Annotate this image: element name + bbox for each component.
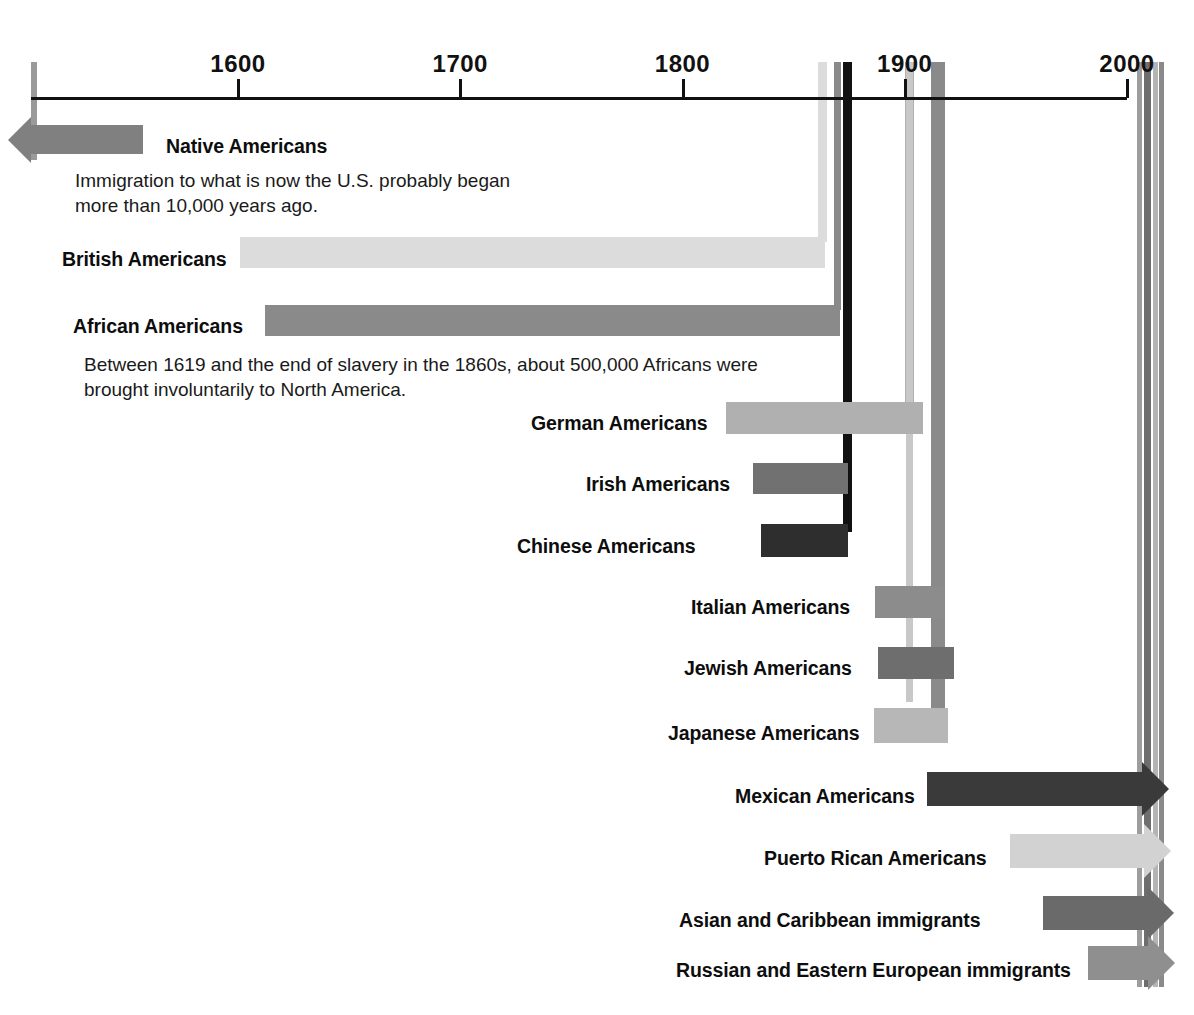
timeline-bar-native-americans[interactable]: [31, 125, 143, 154]
timeline-bar-italian-americans[interactable]: [875, 586, 944, 618]
timeline-label-british-americans: British Americans: [62, 250, 226, 270]
era-guide-italian-americans: [931, 62, 945, 722]
timeline-bar-mexican-americans[interactable]: [927, 772, 1142, 806]
caption-0: Immigration to what is now the U.S. prob…: [75, 168, 510, 218]
caption-1: Between 1619 and the end of slavery in t…: [84, 352, 758, 402]
timeline-label-mexican-americans: Mexican Americans: [735, 787, 915, 807]
timeline-arrow-right-mexican-americans: [1142, 762, 1169, 816]
timeline-bar-irish-americans[interactable]: [753, 463, 848, 494]
axis-tick-1800: [682, 79, 685, 98]
timeline-bar-german-americans[interactable]: [726, 402, 923, 434]
axis-tick-1900: [904, 79, 907, 98]
axis-tick-1700: [459, 79, 462, 98]
timeline-bar-jewish-americans[interactable]: [878, 647, 954, 679]
era-guide-chinese-americans: [843, 62, 852, 532]
timeline-arrow-right-puerto-rican-americans: [1144, 824, 1171, 878]
timeline-label-puerto-rican-americans: Puerto Rican Americans: [764, 849, 987, 869]
timeline-label-german-americans: German Americans: [531, 414, 708, 434]
timeline-label-italian-americans: Italian Americans: [691, 598, 850, 618]
timeline-bar-british-americans[interactable]: [240, 237, 825, 268]
timeline-label-jewish-americans: Jewish Americans: [684, 659, 852, 679]
axis-tick-1600: [237, 79, 240, 98]
timeline-label-asian-and-caribbean-immigrants: Asian and Caribbean immigrants: [679, 911, 981, 931]
timeline-label-irish-americans: Irish Americans: [586, 475, 730, 495]
axis-tick-label-1700: 1700: [433, 50, 488, 78]
timeline-arrow-left-native-americans: [8, 117, 31, 163]
timeline-label-african-americans: African Americans: [73, 317, 243, 337]
timeline-axis: [31, 97, 1127, 100]
timeline-label-japanese-americans: Japanese Americans: [668, 724, 860, 744]
timeline-bar-puerto-rican-americans[interactable]: [1010, 834, 1144, 868]
axis-tick-label-2000: 2000: [1099, 50, 1154, 78]
axis-tick-label-1900: 1900: [877, 50, 932, 78]
timeline-label-native-americans: Native Americans: [166, 137, 327, 157]
era-guide-british-americans: [818, 62, 827, 242]
axis-tick-label-1600: 1600: [210, 50, 265, 78]
axis-tick-label-1800: 1800: [655, 50, 710, 78]
axis-tick-2000: [1126, 79, 1129, 98]
timeline-bar-russian-and-eastern-european-immigrants[interactable]: [1088, 946, 1148, 980]
timeline-arrow-right-asian-and-caribbean-immigrants: [1147, 886, 1174, 940]
timeline-bar-chinese-americans[interactable]: [761, 524, 848, 557]
immigration-timeline-chart: 16001700180019002000 Native AmericansBri…: [0, 0, 1194, 1015]
timeline-bar-japanese-americans[interactable]: [874, 708, 948, 743]
timeline-label-chinese-americans: Chinese Americans: [517, 537, 696, 557]
timeline-arrow-right-russian-and-eastern-european-immigrants: [1148, 936, 1175, 990]
timeline-label-russian-and-eastern-european-immigrants: Russian and Eastern European immigrants: [676, 961, 1071, 981]
timeline-bar-african-americans[interactable]: [265, 305, 840, 336]
timeline-bar-asian-and-caribbean-immigrants[interactable]: [1043, 896, 1147, 930]
